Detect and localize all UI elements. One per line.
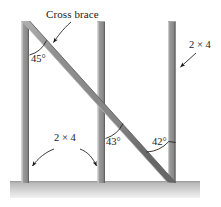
cross-brace-label: Cross brace	[46, 9, 99, 20]
lumber-label-bottom: 2 × 4	[54, 133, 76, 144]
lumber-bottom-leader-right	[80, 149, 97, 166]
lumber-label-right: 2 × 4	[189, 40, 211, 51]
angle-label-43: 43°	[106, 137, 121, 148]
post-left	[22, 21, 30, 183]
figure-canvas	[0, 0, 221, 207]
ground	[10, 181, 200, 198]
angle-label-42: 42°	[152, 137, 167, 148]
lumber-bottom-leader-left	[33, 149, 55, 166]
cross-brace-figure: Cross brace 45° 43° 42° 2 × 4 2 × 4	[0, 0, 221, 207]
cross-brace-leader	[54, 22, 72, 43]
angle-label-45: 45°	[31, 54, 46, 65]
post-right	[168, 21, 176, 183]
lumber-right-leader	[181, 53, 197, 67]
